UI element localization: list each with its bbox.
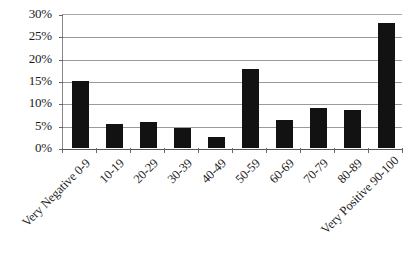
y-axis-tick-label: 30% (29, 6, 52, 22)
y-axis-tick (59, 104, 63, 105)
y-axis-tick (59, 37, 63, 38)
y-axis-tick-label: 15% (29, 73, 52, 89)
plot-area (62, 14, 402, 148)
bar (344, 110, 361, 148)
x-axis-tick (300, 148, 301, 153)
bar (174, 128, 191, 148)
y-axis-tick (59, 82, 63, 83)
bar (310, 108, 327, 148)
bar (378, 23, 395, 148)
bar (140, 122, 157, 148)
y-axis: 0%5%10%15%20%25%30% (0, 0, 58, 163)
y-axis-tick-label: 5% (35, 118, 52, 134)
bars-group (63, 15, 402, 148)
bar (208, 137, 225, 148)
x-axis-tick (334, 148, 335, 153)
y-axis-tick-label: 20% (29, 51, 52, 67)
x-axis-tick (164, 148, 165, 153)
bar-chart: 0%5%10%15%20%25%30% Very Negative 0-910-… (0, 0, 410, 263)
y-axis-tick-label: 10% (29, 95, 52, 111)
bar (106, 124, 123, 148)
x-axis-tick (130, 148, 131, 153)
x-axis-tick (368, 148, 369, 153)
y-axis-tick (59, 60, 63, 61)
x-axis-tick (96, 148, 97, 153)
x-axis-tick (232, 148, 233, 153)
bar (276, 120, 293, 148)
x-axis-tick (402, 148, 403, 153)
bar (242, 69, 259, 149)
x-axis-tick (198, 148, 199, 153)
y-axis-tick (59, 15, 63, 16)
y-axis-tick-label: 0% (35, 140, 52, 156)
bar (72, 81, 89, 148)
y-axis-tick-label: 25% (29, 28, 52, 44)
y-axis-tick (59, 127, 63, 128)
x-axis-tick (266, 148, 267, 153)
x-axis-tick (62, 148, 63, 153)
